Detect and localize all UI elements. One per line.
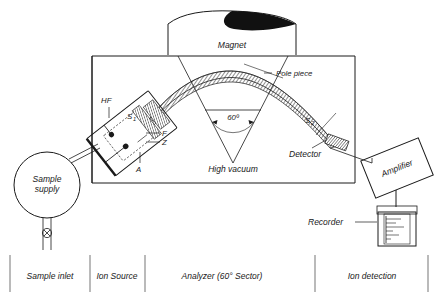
mass-spectrometer-diagram: Magnet 60º Pole piece [0, 0, 442, 298]
sample-supply-label-line1: Sample [33, 174, 62, 184]
recorder-label: Recorder [308, 217, 344, 227]
section-labels: Sample inlet Ion Source Analyzer (60° Se… [27, 271, 397, 281]
detector-body [325, 134, 349, 151]
pole-piece-label: Pole piece [276, 69, 313, 78]
hf-filament-node [108, 131, 115, 138]
ionization-node [122, 142, 130, 150]
detector-leader [312, 140, 326, 148]
hf-lead-post [104, 125, 110, 133]
recorder-group: Recorder [308, 206, 417, 246]
f-label: F [162, 129, 168, 138]
detector-collector [325, 134, 349, 151]
section-label-ion-source: Ion Source [96, 271, 137, 281]
detector-label: Detector [289, 149, 322, 159]
amplifier-label: Amplifier [379, 157, 415, 179]
high-vacuum-label: High vacuum [208, 164, 258, 174]
accelerator-plate-line [138, 135, 147, 142]
z-label: Z [161, 138, 167, 147]
recorder-top-bar [377, 206, 417, 214]
a-label: A [135, 165, 141, 174]
recorder-chart-paper [384, 214, 410, 244]
slit1-sub: 1 [133, 116, 136, 122]
angle-arc [212, 122, 254, 133]
sector-angle-label: 60º [227, 113, 240, 122]
ion-beam-envelope [146, 71, 338, 148]
slit2-pointer [316, 113, 336, 135]
section-label-ion-detection: Ion detection [348, 271, 397, 281]
sample-supply-label-line2: supply [35, 184, 60, 194]
section-label-sample-inlet: Sample inlet [27, 271, 74, 281]
section-label-analyzer: Analyzer (60° Sector) [181, 271, 263, 281]
magnet-group: Magnet [168, 11, 296, 55]
magnet-label: Magnet [218, 40, 247, 50]
diagram-canvas: Magnet 60º Pole piece [0, 0, 442, 298]
hf-label: HF [101, 96, 113, 105]
beam-to-detector [330, 148, 372, 163]
beam-outer-band [146, 71, 338, 148]
detector-group: S 2 Detector [289, 113, 372, 163]
magnet-pole-cap [224, 11, 296, 30]
amplifier-group: Amplifier [361, 138, 433, 207]
sample-supply-group: Sample supply [14, 144, 100, 250]
